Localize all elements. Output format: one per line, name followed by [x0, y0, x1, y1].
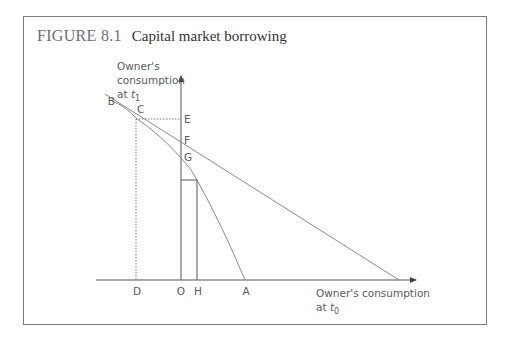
y-axis-label-line2: consumption — [117, 74, 185, 86]
capital-market-diagram: Owner's consumption at t1 Owner's consum… — [0, 0, 513, 345]
label-f: F — [184, 134, 190, 146]
capital-market-line — [105, 94, 399, 280]
label-g: G — [184, 151, 192, 163]
x-axis-label-line2: at t0 — [316, 301, 339, 316]
label-o: O — [177, 285, 185, 297]
label-a: A — [242, 285, 250, 297]
label-h: H — [194, 285, 202, 297]
y-axis-label-line3: at t1 — [117, 88, 140, 103]
label-d: D — [133, 285, 141, 297]
y-axis-label-line1: Owner's — [117, 60, 160, 72]
x-axis-label-line1: Owner's consumption — [316, 287, 430, 299]
investment-opportunity-curve — [112, 101, 245, 280]
label-c: C — [137, 103, 144, 115]
label-b: B — [108, 95, 115, 107]
label-e: E — [184, 113, 191, 125]
